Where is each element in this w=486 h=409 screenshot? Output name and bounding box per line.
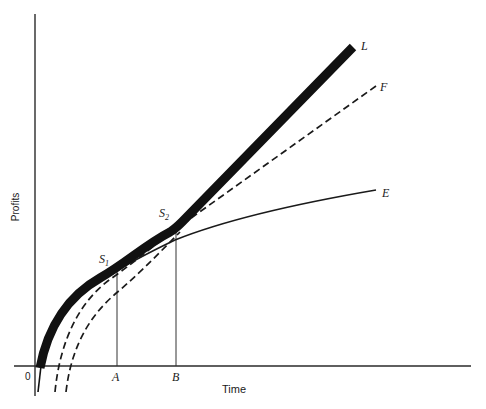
point-label-s1: S1 <box>99 253 109 268</box>
tick-label-b: B <box>172 371 179 383</box>
profits-time-diagram <box>0 0 486 409</box>
curve-l <box>40 47 353 368</box>
curve-label-l: L <box>361 40 368 52</box>
origin-label: 0 <box>25 372 31 382</box>
x-axis-label: Time <box>222 384 246 395</box>
curve-f <box>55 86 376 392</box>
y-axis-label: Profits <box>11 193 21 221</box>
s1-sub: 1 <box>105 259 109 268</box>
curve-l-tail <box>38 366 41 392</box>
point-label-s2: S2 <box>159 207 169 222</box>
curve-label-f: F <box>380 81 387 93</box>
curve-label-e: E <box>382 187 389 199</box>
curve-dashed-lower <box>66 232 180 392</box>
s2-sub: 2 <box>165 213 169 222</box>
tick-label-a: A <box>112 371 119 383</box>
